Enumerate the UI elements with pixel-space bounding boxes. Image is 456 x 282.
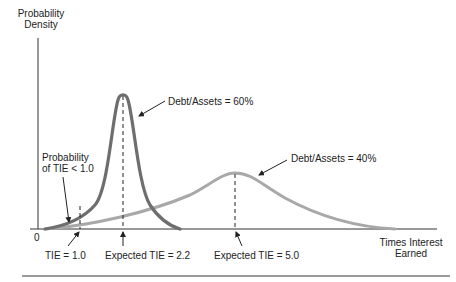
x-axis-label-line1: Times Interest bbox=[376, 237, 446, 248]
arrow-tie-1 bbox=[68, 232, 79, 246]
annotation-prob-line1: Probability bbox=[42, 152, 94, 163]
x-axis-label: Times Interest Earned bbox=[376, 237, 446, 259]
annotation-debt-assets-60: Debt/Assets = 60% bbox=[168, 96, 253, 107]
label-tie-1: TIE = 1.0 bbox=[45, 250, 86, 261]
label-expected-tie-5-0: Expected TIE = 5.0 bbox=[214, 250, 299, 261]
arrow-60 bbox=[139, 101, 165, 116]
arrow-40 bbox=[259, 160, 287, 175]
annotation-probability-tie-below-1: Probability of TIE < 1.0 bbox=[42, 152, 94, 174]
x-axis-label-line2: Earned bbox=[376, 248, 446, 259]
arrow-prob bbox=[63, 177, 69, 222]
label-expected-tie-2-2: Expected TIE = 2.2 bbox=[105, 250, 190, 261]
x-origin-label: 0 bbox=[34, 232, 40, 243]
arrow-tie-5-0 bbox=[236, 232, 242, 246]
y-axis-label-line2: Density bbox=[10, 19, 72, 30]
annotation-debt-assets-40: Debt/Assets = 40% bbox=[291, 153, 376, 164]
y-axis-label-line1: Probability bbox=[10, 8, 72, 19]
y-axis-label: Probability Density bbox=[10, 8, 72, 30]
annotation-prob-line2: of TIE < 1.0 bbox=[42, 163, 94, 174]
